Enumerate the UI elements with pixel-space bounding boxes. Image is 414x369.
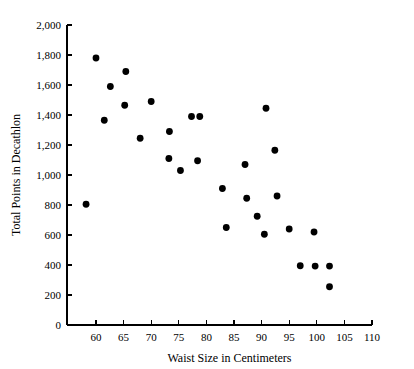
x-tick-label: 75 (173, 331, 185, 343)
x-tick-label: 110 (364, 331, 381, 343)
data-point (243, 195, 250, 202)
data-point (219, 185, 226, 192)
x-axis-tick-labels: 6065707580859095100105110 (91, 331, 381, 343)
y-axis-title: Total Points in Decathlon (9, 114, 23, 236)
y-tick-label: 800 (45, 199, 62, 211)
y-tick-label: 1,400 (36, 109, 61, 121)
y-tick-label: 600 (45, 229, 62, 241)
data-point (93, 55, 100, 62)
data-point-series (83, 55, 333, 291)
y-axis-tick-marks (67, 25, 72, 325)
data-point (165, 155, 172, 162)
scatter-chart-figure: 02004006008001,0001,2001,4001,6001,8002,… (0, 0, 414, 369)
x-axis-title: Waist Size in Centimeters (167, 351, 291, 365)
data-point (263, 105, 270, 112)
data-point (223, 224, 230, 231)
data-point (254, 213, 261, 220)
x-tick-label: 80 (201, 331, 213, 343)
data-point (121, 102, 128, 109)
data-point (242, 161, 249, 168)
data-point (261, 231, 268, 238)
y-tick-label: 1,800 (36, 49, 61, 61)
y-tick-label: 1,200 (36, 139, 61, 151)
y-tick-label: 200 (45, 289, 62, 301)
data-point (311, 229, 318, 236)
data-point (107, 83, 114, 90)
data-point (137, 135, 144, 142)
y-axis-tick-labels: 02004006008001,0001,2001,4001,6001,8002,… (36, 19, 61, 331)
x-tick-label: 60 (91, 331, 103, 343)
data-point (83, 201, 90, 208)
y-tick-label: 1,000 (36, 169, 61, 181)
data-point (271, 147, 278, 154)
data-point (326, 263, 333, 270)
data-point (101, 117, 108, 124)
x-tick-label: 65 (118, 331, 130, 343)
y-tick-label: 1,600 (36, 79, 61, 91)
data-point (196, 113, 203, 120)
x-tick-label: 95 (284, 331, 296, 343)
x-tick-label: 85 (229, 331, 241, 343)
data-point (274, 193, 281, 200)
data-point (286, 226, 293, 233)
data-point (188, 113, 195, 120)
data-point (326, 283, 333, 290)
data-point (312, 263, 319, 270)
data-point (166, 128, 173, 135)
data-point (122, 68, 129, 75)
y-tick-label: 400 (45, 259, 62, 271)
x-tick-label: 90 (256, 331, 268, 343)
x-tick-label: 100 (309, 331, 326, 343)
x-tick-label: 70 (146, 331, 158, 343)
y-tick-label: 2,000 (36, 19, 61, 31)
x-tick-label: 105 (336, 331, 353, 343)
data-point (177, 167, 184, 174)
data-point (148, 98, 155, 105)
data-point (297, 262, 304, 269)
data-point (194, 157, 201, 164)
plot-area: 02004006008001,0001,2001,4001,6001,8002,… (0, 0, 414, 369)
x-axis-tick-marks (96, 320, 372, 325)
y-tick-label: 0 (56, 319, 62, 331)
